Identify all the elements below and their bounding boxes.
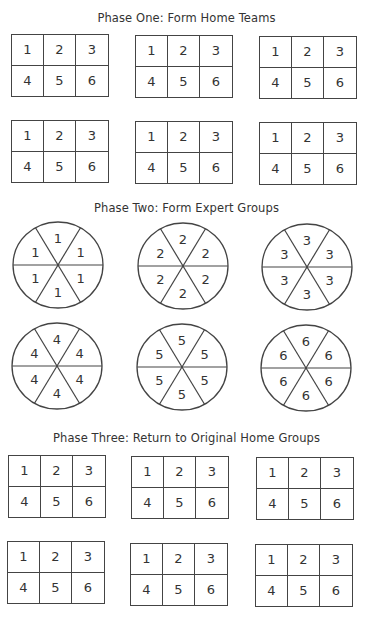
team-member-cell: 2	[168, 36, 200, 67]
expert-member-label: 4	[30, 346, 38, 361]
expert-group-circle: 666666	[259, 323, 353, 413]
team-member-cell: 6	[196, 488, 228, 519]
team-member-cell: 6	[324, 68, 356, 99]
expert-member-label: 3	[325, 247, 333, 262]
expert-member-label: 6	[324, 348, 332, 363]
team-member-cell: 5	[163, 575, 195, 606]
team-member-cell: 3	[76, 35, 108, 66]
team-member-cell: 1	[12, 121, 44, 152]
expert-member-label: 2	[179, 286, 187, 301]
team-member-cell: 4	[131, 575, 163, 606]
expert-member-label: 3	[280, 247, 288, 262]
team-member-cell: 5	[168, 67, 200, 98]
expert-member-label: 2	[201, 272, 209, 287]
team-member-cell: 2	[289, 458, 321, 489]
phase-one-home-team-grid: 123456	[11, 120, 109, 183]
team-member-cell: 2	[44, 35, 76, 66]
expert-member-label: 5	[200, 373, 208, 388]
expert-member-label: 1	[54, 285, 62, 300]
phase-two-title: Phase Two: Form Expert Groups	[0, 201, 373, 215]
team-member-cell: 1	[136, 122, 168, 153]
expert-member-label: 5	[178, 387, 186, 402]
expert-member-label: 2	[201, 246, 209, 261]
team-member-cell: 4	[256, 576, 288, 607]
phase-three-home-team-grid: 123456	[7, 541, 105, 604]
team-member-cell: 6	[195, 575, 227, 606]
expert-member-label: 4	[53, 386, 61, 401]
team-member-cell: 2	[41, 456, 73, 487]
team-member-cell: 1	[260, 123, 292, 154]
team-member-cell: 6	[321, 489, 353, 520]
expert-member-label: 2	[156, 246, 164, 261]
expert-member-label: 4	[75, 346, 83, 361]
team-member-cell: 5	[168, 153, 200, 184]
team-member-cell: 2	[292, 37, 324, 68]
team-member-cell: 4	[8, 573, 40, 604]
team-member-cell: 1	[132, 457, 164, 488]
team-member-cell: 3	[320, 545, 352, 576]
team-member-cell: 5	[292, 154, 324, 185]
team-member-cell: 6	[76, 66, 108, 97]
team-member-cell: 3	[200, 36, 232, 67]
team-member-cell: 4	[260, 154, 292, 185]
team-member-cell: 3	[76, 121, 108, 152]
expert-member-label: 3	[303, 287, 311, 302]
expert-member-label: 1	[31, 245, 39, 260]
team-member-cell: 4	[9, 487, 41, 518]
team-member-cell: 3	[72, 542, 104, 573]
team-member-cell: 1	[260, 37, 292, 68]
expert-member-label: 1	[54, 231, 62, 246]
team-member-cell: 4	[12, 152, 44, 183]
expert-member-label: 5	[155, 347, 163, 362]
team-member-cell: 5	[40, 573, 72, 604]
phase-one-title: Phase One: Form Home Teams	[0, 11, 373, 25]
phase-three-title: Phase Three: Return to Original Home Gro…	[0, 431, 373, 445]
expert-member-label: 6	[324, 374, 332, 389]
team-member-cell: 6	[200, 67, 232, 98]
team-member-cell: 4	[136, 153, 168, 184]
expert-group-circle: 555555	[135, 322, 229, 412]
team-member-cell: 3	[196, 457, 228, 488]
team-member-cell: 4	[12, 66, 44, 97]
team-member-cell: 4	[136, 67, 168, 98]
team-member-cell: 2	[288, 545, 320, 576]
team-member-cell: 6	[76, 152, 108, 183]
team-member-cell: 2	[164, 457, 196, 488]
team-member-cell: 1	[136, 36, 168, 67]
team-member-cell: 5	[164, 488, 196, 519]
expert-group-circle: 222222	[136, 221, 230, 311]
team-member-cell: 6	[320, 576, 352, 607]
expert-member-label: 6	[279, 348, 287, 363]
team-member-cell: 1	[256, 545, 288, 576]
phase-three-home-team-grid: 123456	[8, 455, 106, 518]
team-member-cell: 3	[324, 123, 356, 154]
expert-member-label: 1	[76, 245, 84, 260]
team-member-cell: 5	[288, 576, 320, 607]
team-member-cell: 5	[292, 68, 324, 99]
team-member-cell: 6	[200, 153, 232, 184]
team-member-cell: 2	[44, 121, 76, 152]
team-member-cell: 4	[132, 488, 164, 519]
team-member-cell: 1	[257, 458, 289, 489]
team-member-cell: 6	[324, 154, 356, 185]
phase-three-home-team-grid: 123456	[130, 543, 228, 606]
expert-member-label: 6	[302, 388, 310, 403]
expert-member-label: 6	[279, 374, 287, 389]
phase-one-home-team-grid: 123456	[11, 34, 109, 97]
team-member-cell: 4	[260, 68, 292, 99]
expert-member-label: 4	[75, 372, 83, 387]
phase-three-home-team-grid: 123456	[255, 544, 353, 607]
phase-three-home-team-grid: 123456	[131, 456, 229, 519]
expert-member-label: 2	[156, 272, 164, 287]
expert-member-label: 2	[179, 232, 187, 247]
team-member-cell: 5	[289, 489, 321, 520]
team-member-cell: 2	[292, 123, 324, 154]
team-member-cell: 6	[72, 573, 104, 604]
expert-group-circle: 111111	[11, 220, 105, 310]
team-member-cell: 2	[40, 542, 72, 573]
team-member-cell: 4	[257, 489, 289, 520]
team-member-cell: 5	[44, 152, 76, 183]
expert-member-label: 5	[200, 347, 208, 362]
expert-member-label: 3	[325, 273, 333, 288]
team-member-cell: 3	[321, 458, 353, 489]
